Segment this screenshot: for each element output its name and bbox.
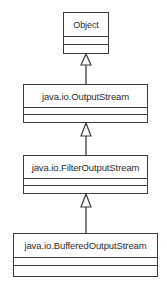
class-attributes-bufferedoutputstream — [14, 258, 157, 266]
class-operations-outputstream — [24, 115, 147, 122]
class-operations-filteroutputstream — [24, 186, 147, 193]
uml-class-diagram: Object java.io.OutputStream java.io.Filt… — [0, 0, 167, 293]
class-name-object: Object — [64, 13, 108, 37]
generalization-filteroutputstream-to-outputstream — [81, 123, 91, 155]
class-operations-bufferedoutputstream — [14, 266, 157, 274]
class-operations-object — [64, 45, 108, 53]
generalization-arrowhead-icon — [81, 54, 91, 65]
class-name-outputstream: java.io.OutputStream — [24, 85, 147, 108]
class-box-outputstream[interactable]: java.io.OutputStream — [23, 84, 148, 123]
class-box-object[interactable]: Object — [63, 12, 109, 54]
class-name-filteroutputstream: java.io.FilterOutputStream — [24, 156, 147, 179]
generalization-outputstream-to-object — [81, 54, 91, 84]
class-attributes-filteroutputstream — [24, 179, 147, 186]
class-box-filteroutputstream[interactable]: java.io.FilterOutputStream — [23, 155, 148, 194]
class-box-bufferedoutputstream[interactable]: java.io.BufferedOutputStream — [13, 233, 158, 277]
generalization-bufferedoutputstream-to-filteroutputstream — [81, 194, 91, 233]
generalization-arrowhead-icon — [81, 194, 91, 207]
class-attributes-outputstream — [24, 108, 147, 115]
class-name-bufferedoutputstream: java.io.BufferedOutputStream — [14, 234, 157, 258]
generalization-arrowhead-icon — [81, 123, 91, 136]
class-attributes-object — [64, 37, 108, 45]
